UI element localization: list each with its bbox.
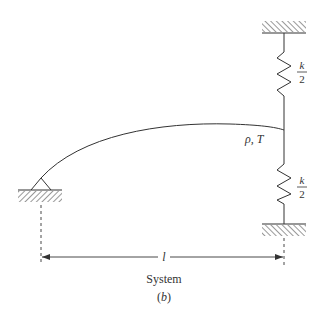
lower-spring: [277, 160, 291, 224]
string-label: ρ, T: [244, 132, 265, 146]
svg-text:2: 2: [299, 188, 305, 200]
lower-spring-label: k 2: [297, 174, 307, 200]
figure-sublabel: (b): [157, 290, 171, 304]
upper-spring-label: k 2: [297, 59, 307, 85]
left-pin-support: [18, 178, 62, 202]
top-ground-support: [262, 21, 306, 33]
svg-text:2: 2: [299, 73, 305, 85]
figure-caption: System: [146, 272, 182, 286]
string-spring-system-diagram: l ρ, T k 2 k 2 System (b): [0, 0, 324, 315]
bottom-ground-support: [262, 224, 306, 236]
upper-spring: [277, 33, 291, 160]
svg-text:k: k: [300, 174, 306, 186]
length-label: l: [162, 250, 166, 264]
svg-text:k: k: [300, 59, 306, 71]
